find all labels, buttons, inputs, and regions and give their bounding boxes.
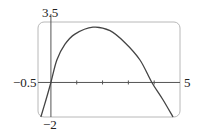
plot-frame	[38, 22, 180, 117]
x-min-label: −0.5	[13, 76, 37, 89]
curve-line	[41, 27, 173, 117]
chart-plot	[0, 0, 203, 136]
y-max-label: 3.5	[42, 6, 58, 19]
x-max-label: 5	[184, 76, 191, 89]
y-min-label: −2	[43, 118, 57, 131]
